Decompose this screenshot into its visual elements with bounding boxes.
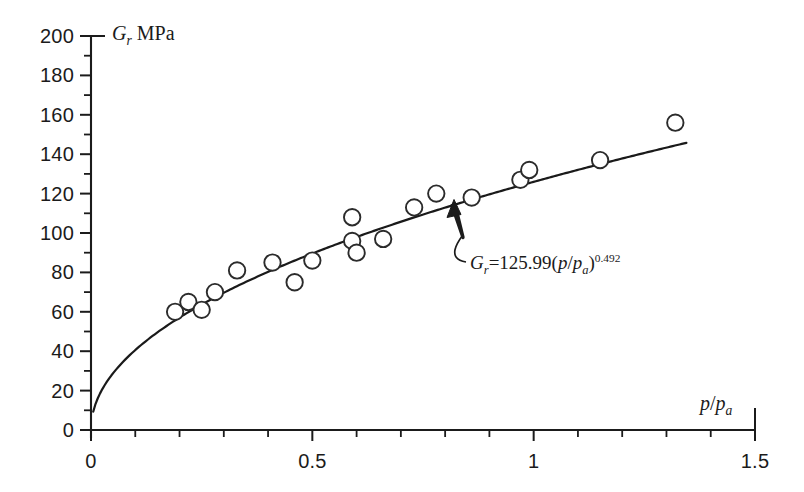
annotation-leader-line <box>455 235 466 262</box>
equation-coefficient: 125.99 <box>499 252 551 273</box>
data-point-marker <box>375 231 391 247</box>
y-tick-label: 160 <box>18 103 74 126</box>
y-axis-title: Gr MPa <box>112 22 175 49</box>
y-tick-label: 40 <box>18 340 74 363</box>
x-tick-label: 0 <box>85 450 96 473</box>
x-tick-label: 1 <box>528 450 539 473</box>
data-point-marker <box>304 252 320 268</box>
y-axis-unit: MPa <box>137 22 175 44</box>
y-tick-label: 200 <box>18 25 74 48</box>
data-point-marker <box>521 162 537 178</box>
data-point-marker <box>344 209 360 225</box>
y-tick-label: 20 <box>18 379 74 402</box>
data-point-marker <box>264 254 280 270</box>
data-point-marker <box>229 262 245 278</box>
equation-exponent: 0.492 <box>595 252 621 264</box>
y-axis-symbol: G <box>112 22 126 44</box>
y-tick-label: 120 <box>18 182 74 205</box>
y-tick-label: 180 <box>18 64 74 87</box>
x-tick-label: 0.5 <box>298 450 326 473</box>
y-tick-label: 0 <box>18 419 74 442</box>
x-axis-numerator: p <box>700 392 710 414</box>
data-points <box>167 114 684 320</box>
data-point-marker <box>207 284 223 300</box>
data-point-marker <box>463 189 479 205</box>
y-tick-label: 60 <box>18 300 74 323</box>
data-point-marker <box>667 114 683 130</box>
y-tick-label: 140 <box>18 143 74 166</box>
data-point-marker <box>406 199 422 215</box>
equation-equals: = <box>489 252 500 273</box>
data-point-marker <box>286 274 302 290</box>
equation-denominator: p <box>573 252 583 273</box>
data-point-marker <box>428 185 444 201</box>
chart-figure: 020406080100120140160180200 00.511.5 Gr … <box>0 0 804 492</box>
y-tick-label: 80 <box>18 261 74 284</box>
x-tick-label: 1.5 <box>741 450 769 473</box>
axis-ticks <box>80 36 755 441</box>
fit-equation-annotation: Gr=125.99(p/pa)0.492 <box>470 252 620 278</box>
annotation-leader <box>447 200 466 263</box>
plot-area <box>0 0 804 492</box>
x-axis-denominator-subscript: a <box>726 403 733 418</box>
x-axis-title: p/pa <box>700 392 732 419</box>
annotation-arrowhead <box>447 200 461 218</box>
data-point-marker <box>592 152 608 168</box>
axes <box>86 36 755 438</box>
x-axis-denominator: p <box>716 392 726 414</box>
equation-lhs-symbol: G <box>470 252 484 273</box>
equation-numerator: p <box>558 252 568 273</box>
y-tick-label: 100 <box>18 222 74 245</box>
data-point-marker <box>348 245 364 261</box>
data-point-marker <box>193 302 209 318</box>
y-axis-subscript: r <box>126 33 131 48</box>
